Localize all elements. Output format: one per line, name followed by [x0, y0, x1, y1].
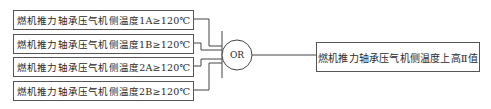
- input-label: 燃机推力轴承压气机侧温度2B≥120℃: [17, 84, 191, 98]
- output-label: 燃机推力轴承压气机侧温度上高Ⅱ值: [318, 50, 478, 65]
- input-condition-2a: 燃机推力轴承压气机侧温度2A≥120℃: [13, 57, 194, 77]
- input-condition-1a: 燃机推力轴承压气机侧温度1A≥120℃: [13, 10, 194, 30]
- input-label: 燃机推力轴承压气机侧温度2A≥120℃: [17, 60, 190, 74]
- or-gate-label: OR: [225, 50, 249, 60]
- input-condition-1b: 燃机推力轴承压气机侧温度1B≥120℃: [13, 34, 194, 54]
- input-condition-2b: 燃机推力轴承压气机侧温度2B≥120℃: [13, 81, 194, 101]
- output-result-box: 燃机推力轴承压气机侧温度上高Ⅱ值: [316, 42, 480, 72]
- input-label: 燃机推力轴承压气机侧温度1B≥120℃: [17, 37, 191, 51]
- input-label: 燃机推力轴承压气机侧温度1A≥120℃: [17, 13, 190, 27]
